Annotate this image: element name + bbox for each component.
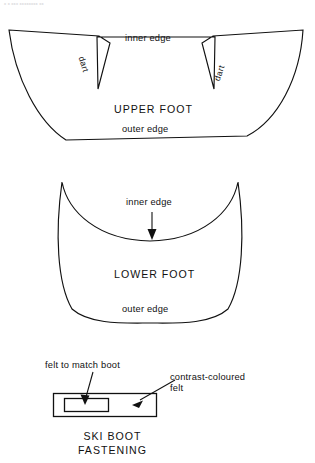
lower-foot-outer-edge-label: outer edge <box>122 304 168 316</box>
felt-to-match-boot-label: felt to match boot <box>45 360 120 372</box>
upper-foot-outer-edge-label: outer edge <box>122 124 168 136</box>
lower-foot-inner-edge-label: inner edge <box>126 197 172 209</box>
lower-inner-edge-arrowhead <box>148 229 157 240</box>
contrast-coloured-felt-label-line2: felt <box>170 383 183 395</box>
upper-foot-inner-edge-label: inner edge <box>125 33 171 45</box>
contrast-coloured-felt-label-line1: contrast-coloured <box>170 372 245 384</box>
lower-foot-title: LOWER FOOT <box>114 268 195 281</box>
top-edge-note: x x xxx xxxxxxxx xx <box>4 1 44 6</box>
upper-foot-title: UPPER FOOT <box>114 103 193 116</box>
ski-boot-fastening-title-line2: FASTENING <box>60 444 165 457</box>
pattern-sheet: x x xxx xxxxxxxx xx inner edge dart dart… <box>0 0 315 463</box>
ski-boot-fastening-title-line1: SKI BOOT <box>60 430 165 443</box>
pattern-diagram-canvas <box>0 0 315 463</box>
